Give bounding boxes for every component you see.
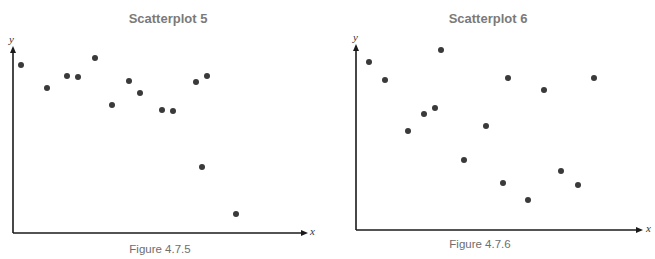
- data-point: [137, 90, 143, 96]
- data-point: [500, 180, 506, 186]
- data-point: [109, 102, 115, 108]
- x-axis-arrow-icon: [636, 227, 643, 233]
- scatterplot-canvas: [0, 0, 655, 259]
- data-point: [170, 108, 176, 114]
- data-point: [405, 128, 411, 134]
- data-point: [505, 75, 511, 81]
- data-point: [432, 105, 438, 111]
- data-point: [558, 168, 564, 174]
- data-point: [92, 55, 98, 61]
- data-point: [382, 77, 388, 83]
- data-point: [44, 85, 50, 91]
- y-axis-arrow-icon: [10, 46, 16, 53]
- data-point: [126, 78, 132, 84]
- scatterplot-6-axes: [353, 44, 643, 233]
- scatterplot-5-axes: [10, 46, 308, 236]
- data-point: [193, 79, 199, 85]
- data-point: [204, 73, 210, 79]
- data-point: [525, 197, 531, 203]
- data-point: [366, 59, 372, 65]
- data-point: [461, 157, 467, 163]
- data-point: [159, 107, 165, 113]
- data-point: [18, 62, 24, 68]
- data-point: [75, 74, 81, 80]
- x-axis-arrow-icon: [301, 230, 308, 236]
- data-point: [483, 123, 489, 129]
- data-point: [421, 111, 427, 117]
- data-point: [438, 47, 444, 53]
- y-axis-arrow-icon: [353, 44, 359, 51]
- data-point: [233, 211, 239, 217]
- data-point: [541, 87, 547, 93]
- data-point: [575, 182, 581, 188]
- data-point: [591, 75, 597, 81]
- data-point: [64, 73, 70, 79]
- data-point: [199, 164, 205, 170]
